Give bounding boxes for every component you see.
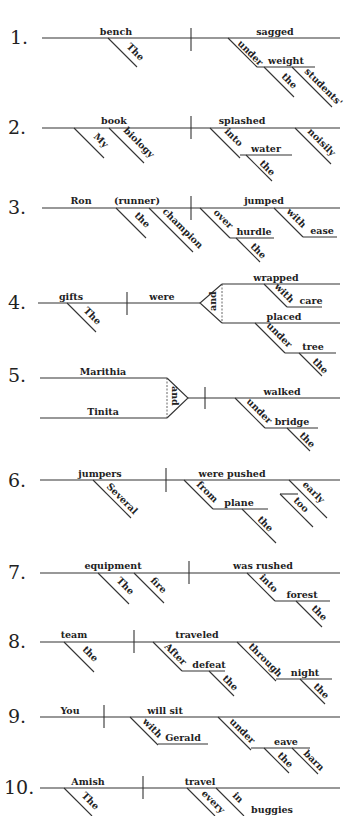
diagram-4: 4. gifts were The and wrapped with care … — [8, 272, 340, 376]
diagram-number: 10. — [4, 776, 34, 798]
subject-word: Marithia — [80, 366, 126, 377]
diagram-10: 10. Amish travel The every in buggies — [4, 776, 340, 816]
diagram-canvas: 1. bench sagged The under weight the stu… — [0, 0, 345, 816]
modifier-word: the — [221, 673, 241, 693]
preposition-word: under — [236, 38, 267, 69]
modifier-word: The — [82, 305, 104, 327]
predicate-word: sagged — [256, 26, 294, 37]
modifier-word: biology — [122, 125, 157, 160]
diagram-number: 4. — [8, 291, 26, 313]
verb-word: wrapped — [252, 272, 299, 283]
object-word: tree — [302, 341, 323, 352]
modifier-word: the — [311, 356, 331, 376]
modifier-word: every — [200, 788, 228, 816]
predicate-word: was rushed — [232, 560, 293, 571]
object-word: Gerald — [165, 732, 201, 743]
modifier-word: Several — [105, 481, 141, 517]
modifier-word: My — [92, 131, 111, 150]
preposition-word: from — [195, 479, 221, 505]
modifier-word: The — [80, 790, 102, 812]
diagram-2: 2. book splashed My biology into water t… — [8, 115, 340, 181]
diagram-number: 9. — [8, 705, 26, 727]
modifier-word: fire — [149, 575, 169, 595]
preposition-word: through — [247, 641, 285, 679]
modifier-word: the — [249, 241, 269, 261]
object-word: defeat — [192, 659, 226, 670]
predicate-word: were — [148, 291, 174, 302]
object-word: ease — [310, 225, 334, 236]
diagram-number: 7. — [8, 561, 26, 583]
predicate-word: were pushed — [197, 468, 265, 479]
object-word: eave — [274, 736, 298, 747]
modifier-word: students' — [303, 66, 345, 108]
modifier-word: the — [258, 158, 278, 178]
predicate-word: traveled — [175, 629, 219, 640]
object-word: care — [300, 295, 323, 306]
preposition-word: over — [212, 207, 237, 232]
diagram-6: 6. jumpers were pushed Several from plan… — [8, 468, 340, 543]
diagram-number: 5. — [8, 364, 26, 386]
modifier-word: the — [276, 750, 296, 770]
diagram-3: 3. Ron (runner) jumped the champion over… — [8, 195, 340, 262]
appositive-word: (runner) — [114, 195, 160, 206]
predicate-word: splashed — [219, 115, 266, 126]
modifier-word: the — [298, 430, 318, 450]
subject-word: Tinita — [87, 406, 119, 417]
object-word: plane — [224, 497, 253, 508]
diagram-number: 6. — [8, 469, 26, 491]
modifier-word: champion — [161, 206, 206, 251]
preposition-word: into — [258, 572, 281, 595]
object-word: buggies — [251, 804, 293, 815]
predicate-word: jumped — [243, 195, 284, 206]
subject-word: You — [59, 705, 79, 716]
conjunction-word: and — [170, 386, 181, 406]
object-word: forest — [286, 589, 318, 600]
subject-word: Amish — [70, 776, 104, 787]
object-word: bridge — [275, 416, 310, 427]
modifier-word: The — [125, 41, 147, 63]
preposition-word: in — [231, 790, 246, 805]
diagram-number: 3. — [8, 196, 26, 218]
modifier-word: barn — [302, 748, 327, 773]
modifier-word: the — [256, 514, 276, 534]
subject-word: team — [61, 629, 88, 640]
object-word: night — [291, 667, 320, 678]
diagram-number: 1. — [10, 26, 28, 48]
modifier-word: the — [81, 644, 101, 664]
subject-word: book — [101, 115, 127, 126]
subject-word: gifts — [59, 291, 83, 302]
modifier-word: the — [310, 603, 330, 623]
preposition-word: After — [162, 640, 190, 668]
object-word: water — [250, 143, 282, 154]
diagram-8: 8. team traveled the After defeat the th… — [8, 629, 340, 704]
preposition-word: under — [265, 320, 296, 351]
modifier-word: noisily — [306, 126, 339, 159]
diagram-7: 7. equipment was rushed The fire into fo… — [8, 560, 340, 627]
modifier-word: too — [292, 495, 312, 515]
diagram-1: 1. bench sagged The under weight the stu… — [10, 26, 345, 108]
diagram-number: 8. — [8, 630, 26, 652]
subject-word: bench — [100, 26, 132, 37]
modifier-word: the — [312, 681, 332, 701]
modifier-word: the — [280, 71, 300, 91]
object-word: weight — [267, 55, 304, 66]
subject-word: equipment — [84, 560, 142, 571]
preposition-word: with — [140, 715, 165, 740]
modifier-word: the — [133, 210, 153, 230]
predicate-word: travel — [185, 776, 216, 787]
subject-word: jumpers — [77, 468, 121, 479]
diagram-number: 2. — [8, 116, 26, 138]
preposition-word: with — [284, 205, 309, 230]
predicate-word: will sit — [146, 705, 183, 716]
object-word: hurdle — [236, 226, 271, 237]
subject-word: Ron — [70, 195, 91, 206]
predicate-word: walked — [262, 386, 301, 397]
diagram-9: 9. You will sit with Gerald under eave t… — [8, 705, 340, 774]
conjunction-word: and — [207, 291, 218, 311]
diagram-5: 5. Marithia Tinita and walked under brid… — [8, 364, 340, 451]
preposition-word: into — [223, 126, 246, 149]
preposition-word: under — [245, 396, 276, 427]
